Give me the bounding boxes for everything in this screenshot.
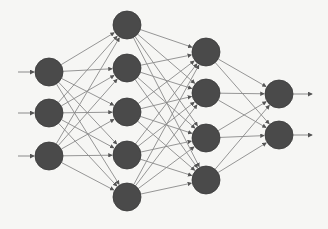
hidden-1-neuron [113,54,141,82]
connection-edge [135,36,197,125]
input-neuron [35,99,63,127]
connection-edge [138,34,195,83]
output-neuron [265,80,293,108]
connections [56,30,269,195]
connection-edge [141,141,192,152]
connection-edge [141,183,192,194]
connection-edge [218,100,266,128]
neural-network-diagram [0,0,328,229]
connection-edge [220,93,264,94]
input-neuron [35,58,63,86]
connection-edge [218,102,266,131]
hidden-2-neuron [192,79,220,107]
output-neuron [265,121,293,149]
connection-edge [141,55,192,65]
hidden-2-neuron [192,166,220,194]
connection-edge [63,155,112,156]
connection-edge [140,30,192,48]
hidden-1-neuron [113,98,141,126]
hidden-2-neuron [192,124,220,152]
input-neuron [35,142,63,170]
hidden-2-neuron [192,38,220,66]
connection-edge [135,79,197,167]
hidden-1-neuron [113,141,141,169]
connection-edge [138,147,194,189]
connection-edge [138,61,194,103]
connection-edge [61,163,113,191]
connection-edge [218,59,266,87]
connection-edge [56,38,119,144]
connection-edge [135,105,196,186]
hidden-1-neuron [113,11,141,39]
connection-edge [133,37,199,166]
hidden-1-neuron [113,183,141,211]
